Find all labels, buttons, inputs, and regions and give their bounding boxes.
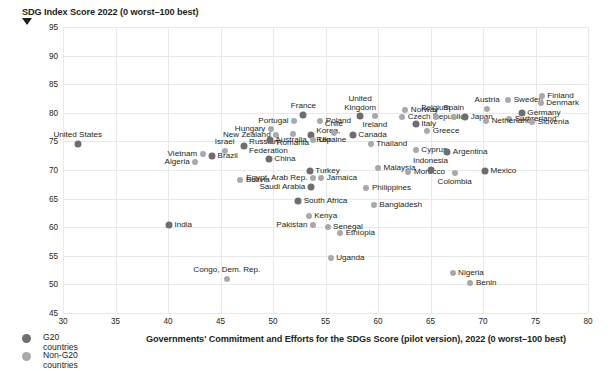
- data-point-label: Canada: [358, 130, 386, 139]
- data-point[interactable]: [444, 149, 451, 156]
- data-point-label: Pakistan: [276, 220, 307, 229]
- data-point[interactable]: [399, 114, 405, 120]
- data-point[interactable]: [462, 114, 469, 121]
- y-axis-tick-label: 95: [34, 23, 58, 32]
- data-point[interactable]: [372, 113, 378, 119]
- data-point-label: New Zealand: [223, 130, 271, 139]
- x-axis-tick-label: 80: [568, 317, 608, 326]
- data-point[interactable]: [318, 175, 324, 181]
- y-axis-tick-label: 90: [34, 51, 58, 60]
- x-axis-title: Governments' Commitment and Efforts for …: [146, 334, 566, 344]
- data-point-label: Jamaica: [327, 173, 357, 182]
- data-point[interactable]: [505, 97, 511, 103]
- data-point[interactable]: [539, 93, 545, 99]
- x-axis-tick-label: 50: [253, 317, 293, 326]
- data-point[interactable]: [375, 165, 381, 171]
- data-point[interactable]: [433, 114, 439, 120]
- x-axis-tick-label: 65: [411, 317, 451, 326]
- data-point[interactable]: [166, 222, 173, 229]
- data-point[interactable]: [310, 137, 316, 143]
- data-point-label: India: [175, 221, 193, 230]
- data-point[interactable]: [368, 141, 374, 147]
- gridline-horizontal: [63, 113, 588, 114]
- data-point-label: Greece: [433, 126, 460, 135]
- x-axis-tick-label: 40: [148, 317, 188, 326]
- data-point[interactable]: [310, 175, 316, 181]
- data-point[interactable]: [413, 147, 419, 153]
- data-point[interactable]: [452, 170, 458, 176]
- data-point-label: Slovenia: [538, 117, 569, 126]
- data-point-label: United States: [53, 131, 102, 140]
- legend-marker-g20-icon: [22, 334, 31, 343]
- x-axis-tick-label: 70: [463, 317, 503, 326]
- data-point[interactable]: [266, 136, 273, 143]
- data-point-label: Spain: [443, 103, 464, 112]
- data-point[interactable]: [306, 213, 312, 219]
- data-point-label: Japan: [471, 113, 493, 122]
- gridline-horizontal: [63, 84, 588, 85]
- data-point-label: Ukraine: [318, 135, 346, 144]
- y-axis-tick-label: 65: [34, 194, 58, 203]
- data-point-label: Philippines: [372, 183, 411, 192]
- data-point[interactable]: [427, 167, 434, 174]
- legend-label-g20: G20 countries: [43, 332, 78, 352]
- data-point[interactable]: [240, 142, 247, 149]
- data-point[interactable]: [325, 224, 331, 230]
- data-point[interactable]: [307, 184, 314, 191]
- data-point-label: Ireland: [362, 121, 387, 130]
- data-point-label: Benin: [476, 279, 497, 288]
- data-point-label: United Kingdom: [344, 94, 376, 112]
- data-point[interactable]: [467, 280, 473, 286]
- data-point[interactable]: [237, 177, 243, 183]
- y-axis-tick-label: 80: [34, 108, 58, 117]
- data-point[interactable]: [291, 118, 297, 124]
- data-point-label: Indonesia: [413, 156, 448, 165]
- data-point[interactable]: [337, 230, 343, 236]
- data-point-label: Uganda: [336, 253, 364, 262]
- data-point[interactable]: [310, 222, 316, 228]
- data-point[interactable]: [265, 155, 272, 162]
- y-axis-tick-label: 85: [34, 80, 58, 89]
- data-point[interactable]: [224, 276, 230, 282]
- data-point[interactable]: [529, 119, 535, 125]
- data-point[interactable]: [424, 128, 430, 134]
- legend-label-non-g20: Non-G20 countries: [43, 350, 78, 370]
- data-point[interactable]: [483, 118, 489, 124]
- y-axis-title: SDG Index Score 2022 (0 worst–100 best): [22, 7, 198, 17]
- data-point-label: Mexico: [491, 166, 517, 175]
- data-point-label: Kenya: [314, 211, 337, 220]
- data-point[interactable]: [482, 167, 489, 174]
- data-point[interactable]: [317, 118, 323, 124]
- legend-marker-non-g20-icon: [22, 352, 31, 361]
- data-point-label: Portugal: [258, 116, 288, 125]
- data-point-label: Chile: [325, 120, 343, 129]
- data-point[interactable]: [74, 141, 81, 148]
- data-point[interactable]: [371, 202, 377, 208]
- data-point[interactable]: [538, 100, 544, 106]
- data-point[interactable]: [484, 106, 490, 112]
- data-point[interactable]: [295, 197, 302, 204]
- scatter-chart: SDG Index Score 2022 (0 worst–100 best) …: [0, 0, 614, 371]
- data-point[interactable]: [357, 113, 364, 120]
- data-point-label: Romania: [277, 138, 309, 147]
- data-point[interactable]: [222, 148, 228, 154]
- data-point[interactable]: [290, 131, 296, 137]
- gridline-horizontal: [63, 256, 588, 257]
- data-point-label: Thailand: [376, 139, 407, 148]
- data-point[interactable]: [200, 151, 206, 157]
- data-point[interactable]: [412, 121, 419, 128]
- data-point-label: Colombia: [438, 177, 472, 186]
- data-point-label: Denmark: [546, 98, 579, 107]
- data-point[interactable]: [300, 111, 307, 118]
- x-axis-tick-label: 75: [516, 317, 556, 326]
- x-axis-tick-label: 35: [96, 317, 136, 326]
- data-point[interactable]: [451, 114, 457, 120]
- data-point[interactable]: [405, 169, 411, 175]
- gridline-vertical: [588, 27, 589, 313]
- data-point[interactable]: [328, 255, 334, 261]
- data-point[interactable]: [363, 185, 369, 191]
- data-point[interactable]: [450, 270, 456, 276]
- data-point[interactable]: [192, 159, 198, 165]
- data-point[interactable]: [209, 153, 216, 160]
- data-point[interactable]: [349, 131, 356, 138]
